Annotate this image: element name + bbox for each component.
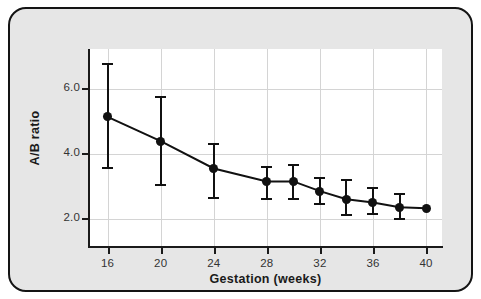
data-point-marker <box>315 187 324 196</box>
error-bar-cap <box>102 167 113 169</box>
x-axis-tick-label: 16 <box>88 257 128 269</box>
y-axis-label: A/B ratio <box>28 93 42 183</box>
data-point-marker <box>289 177 298 186</box>
x-axis-tick <box>161 248 163 254</box>
y-axis-tick-label: 4.0 <box>40 146 80 158</box>
figure-card: 16202428323640 2.04.06.0 Gestation (week… <box>8 7 473 292</box>
error-bar-cap <box>208 197 219 199</box>
error-bar-cap <box>261 166 272 168</box>
x-axis-tick <box>214 248 216 254</box>
y-axis-spine <box>88 49 90 247</box>
y-axis-tick-label: 2.0 <box>40 211 80 223</box>
x-axis-tick-label: 24 <box>194 257 234 269</box>
error-bar-cap <box>367 187 378 189</box>
x-axis-tick-label: 40 <box>406 257 446 269</box>
x-axis-tick <box>267 248 269 254</box>
series-line <box>89 49 442 246</box>
x-axis-tick-label: 32 <box>300 257 340 269</box>
error-bar-cap <box>261 198 272 200</box>
x-axis-tick <box>373 248 375 254</box>
x-axis-spine <box>88 246 443 248</box>
error-bar-cap <box>288 164 299 166</box>
error-bar-cap <box>341 214 352 216</box>
y-axis-tick <box>82 218 88 220</box>
error-bar-cap <box>341 179 352 181</box>
y-axis-tick-labels: 2.04.06.0 <box>36 9 80 292</box>
screenshot-root: 16202428323640 2.04.06.0 Gestation (week… <box>0 0 481 299</box>
x-axis-label: Gestation (weeks) <box>89 272 442 286</box>
x-axis-tick <box>108 248 110 254</box>
error-bar-cap <box>155 96 166 98</box>
y-axis-tick <box>82 88 88 90</box>
error-bar-cap <box>102 63 113 65</box>
data-point-marker <box>156 137 165 146</box>
error-bar-cap <box>394 193 405 195</box>
error-bar-cap <box>288 198 299 200</box>
y-axis-tick-label: 6.0 <box>40 81 80 93</box>
x-axis-tick <box>320 248 322 254</box>
x-axis-tick <box>426 248 428 254</box>
data-point-marker <box>422 204 431 213</box>
error-bar-cap <box>367 213 378 215</box>
error-bar-cap <box>155 184 166 186</box>
data-point-marker <box>395 203 404 212</box>
x-axis-tick-label: 20 <box>141 257 181 269</box>
plot-area <box>89 49 442 246</box>
error-bar-cap <box>314 177 325 179</box>
x-axis-tick-label: 36 <box>353 257 393 269</box>
x-axis-tick-label: 28 <box>247 257 287 269</box>
y-axis-tick <box>82 153 88 155</box>
error-bar-cap <box>394 218 405 220</box>
error-bar-cap <box>208 143 219 145</box>
data-point-marker <box>342 195 351 204</box>
error-bar-cap <box>314 203 325 205</box>
